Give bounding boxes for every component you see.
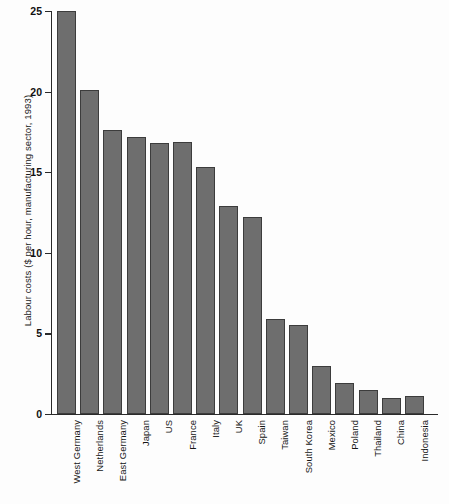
bar (80, 90, 99, 414)
x-tick-label: Thailand (372, 420, 383, 457)
bar (266, 319, 285, 414)
bar (103, 130, 122, 414)
bar (289, 325, 308, 414)
x-tick-label: Netherlands (94, 420, 105, 472)
x-tick-label: Poland (349, 420, 360, 450)
x-tick-label: Japan (140, 420, 151, 446)
x-tick-label: Taiwan (279, 420, 290, 450)
bar (359, 390, 378, 414)
bar (173, 142, 192, 414)
bar (150, 143, 169, 414)
bar (127, 137, 146, 414)
x-tick-label: China (395, 420, 406, 445)
x-tick-label: East Germany (117, 420, 128, 481)
x-tick-label: US (163, 420, 174, 433)
x-tick-label: Spain (256, 420, 267, 444)
bar (219, 206, 238, 414)
bar-chart: Labour costs ($ per hour, manufacturing … (0, 0, 449, 504)
bar (335, 383, 354, 414)
x-tick-label: Italy (210, 420, 221, 438)
x-tick-label: South Korea (303, 420, 314, 473)
x-tick-label: UK (233, 420, 244, 433)
bar (243, 217, 262, 414)
bar (57, 11, 76, 414)
x-tick-label: Indonesia (419, 420, 430, 462)
x-tick-label: France (187, 420, 198, 450)
bar (382, 398, 401, 414)
x-tick-label: Mexico (326, 420, 337, 450)
bar (405, 396, 424, 414)
x-tick-label: West Germany (71, 420, 82, 484)
bar (312, 366, 331, 414)
bar (196, 167, 215, 414)
